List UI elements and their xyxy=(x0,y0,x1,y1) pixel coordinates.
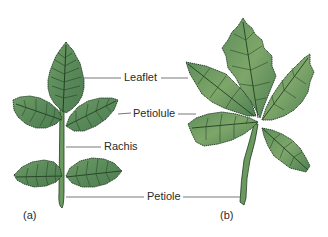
rachis-stem xyxy=(59,108,64,208)
leaflet-label: Leaflet xyxy=(124,72,157,83)
petiolule-leader-left xyxy=(118,113,131,114)
right-lower-leaflet xyxy=(262,128,310,172)
palmate-petiole xyxy=(240,124,258,205)
petiole-label: Petiole xyxy=(147,191,181,202)
lower-right-leaflet xyxy=(66,158,122,187)
panel-b-label: (b) xyxy=(220,210,233,221)
petiolule-label: Petiolule xyxy=(133,108,175,119)
lower-left-leaflet xyxy=(14,160,62,187)
palmate-leaf xyxy=(186,18,314,205)
panel-a-label: (a) xyxy=(23,210,36,221)
rachis-label: Rachis xyxy=(104,141,138,152)
terminal-leaflet xyxy=(48,42,84,113)
left-lower-leaflet xyxy=(188,112,258,146)
pinnate-leaf xyxy=(13,42,122,208)
